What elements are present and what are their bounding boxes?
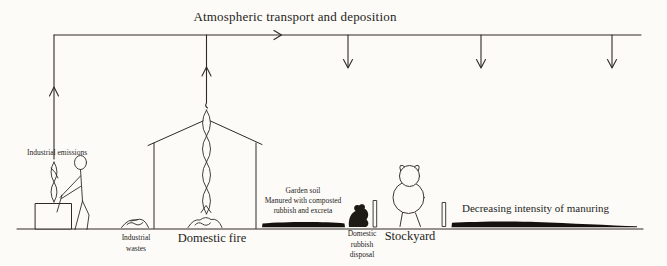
industrial-smoke-icon (51, 162, 58, 202)
industrial-waste-pile-icon (122, 219, 149, 227)
animal-figure-icon (393, 165, 424, 226)
rubbish-heap-icon (349, 204, 369, 227)
fence-post-icon (374, 201, 377, 228)
fire-icon (188, 206, 222, 228)
label-industrial-emissions: Industrial emissions (20, 148, 94, 158)
deposition-down-arrows (344, 35, 617, 68)
down-arrow-icon (608, 35, 617, 68)
figure-title: Atmospheric transport and deposition (160, 9, 430, 25)
label-decreasing-manuring: Decreasing intensity of manuring (462, 202, 609, 214)
diagram-atmospheric-deposition: Atmospheric transport and deposition Ind… (0, 0, 667, 266)
chimney-smoke-icon (203, 110, 211, 214)
fence-post-icon (443, 203, 446, 227)
garden-soil-bar (262, 222, 345, 227)
manure-gradient-bar (452, 221, 638, 227)
down-arrow-icon (344, 35, 353, 68)
label-stockyard: Stockyard (380, 229, 440, 244)
industrial-building (36, 204, 72, 230)
house-outline (148, 121, 262, 229)
diagram-line-art (0, 0, 667, 266)
domestic-fire-up-arrow (202, 35, 211, 108)
label-domestic-fire: Domestic fire (172, 231, 252, 246)
industrial-emissions-up-arrow (50, 35, 59, 159)
label-garden-soil: Garden soil Manured with composted rubbi… (258, 186, 348, 216)
label-industrial-wastes: Industrial wastes (110, 232, 162, 254)
down-arrow-icon (477, 35, 486, 68)
